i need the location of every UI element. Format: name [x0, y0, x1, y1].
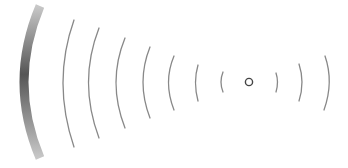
- left-wave-arcs: [63, 20, 223, 147]
- left-wave-arc-6: [196, 65, 199, 101]
- left-wave-arc-2: [89, 28, 100, 138]
- signal-wave-diagram: [0, 0, 348, 168]
- source-point-icon: [245, 78, 252, 85]
- right-wave-arc-1: [276, 73, 278, 92]
- right-wave-arcs: [276, 56, 329, 110]
- right-wave-arc-2: [299, 64, 302, 101]
- left-wave-arc-3: [116, 38, 125, 128]
- left-wave-arc-7: [221, 72, 223, 92]
- left-wave-arc-5: [169, 56, 175, 110]
- reflector-path: [24, 6, 40, 158]
- reflector-arc: [24, 6, 40, 158]
- left-wave-arc-4: [143, 47, 150, 118]
- right-wave-arc-3: [324, 56, 329, 110]
- source-circle-icon: [245, 78, 252, 85]
- left-wave-arc-1: [63, 20, 74, 147]
- wave-illustration: [0, 0, 348, 168]
